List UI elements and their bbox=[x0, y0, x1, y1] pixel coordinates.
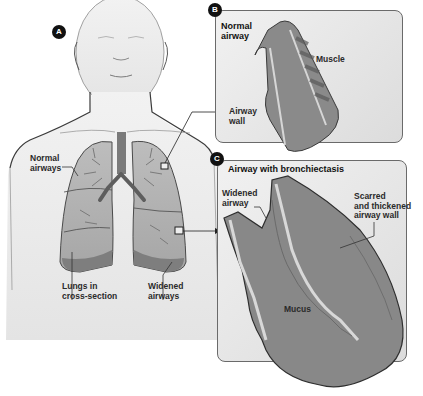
bronchiectasis-diagram: A B C Normal airways Lungs in cross-sect… bbox=[0, 0, 423, 396]
badge-c: C bbox=[210, 152, 224, 166]
label-widened-airway: Widened airway bbox=[222, 189, 257, 208]
label-scarred-wall: Scarred and thickened airway wall bbox=[354, 192, 411, 221]
label-normal-airways: Normal airways bbox=[30, 154, 61, 173]
badge-a: A bbox=[52, 25, 66, 39]
label-muscle: Muscle bbox=[316, 55, 345, 65]
badge-b: B bbox=[208, 3, 222, 17]
label-airway-wall: Airway wall bbox=[229, 107, 257, 126]
panel-b-title: Normal airway bbox=[221, 22, 252, 41]
label-lungs-cross-section: Lungs in cross-section bbox=[62, 282, 117, 301]
panel-c-title: Airway with bronchiectasis bbox=[228, 165, 344, 175]
label-mucus: Mucus bbox=[284, 305, 311, 315]
label-widened-airways: Widened airways bbox=[148, 282, 183, 301]
